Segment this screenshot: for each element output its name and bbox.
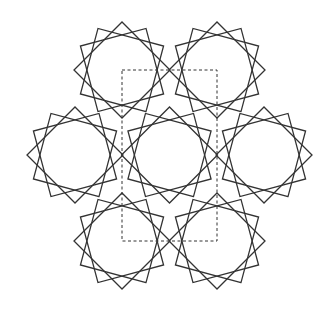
square-outline bbox=[122, 107, 218, 203]
square-outline bbox=[128, 113, 211, 196]
rosette-group bbox=[27, 22, 312, 289]
square-outline bbox=[222, 113, 305, 196]
rosette-middle-left bbox=[27, 107, 123, 203]
square-outline bbox=[27, 107, 123, 203]
geometric-pattern-diagram bbox=[0, 0, 331, 313]
rosette-center bbox=[122, 107, 218, 203]
rosette-middle-right bbox=[216, 107, 312, 203]
repeat-tile-outline bbox=[122, 70, 217, 241]
square-outline bbox=[33, 113, 116, 196]
square-outline bbox=[216, 107, 312, 203]
square-outline bbox=[222, 113, 305, 196]
square-outline bbox=[128, 113, 211, 196]
square-outline bbox=[33, 113, 116, 196]
